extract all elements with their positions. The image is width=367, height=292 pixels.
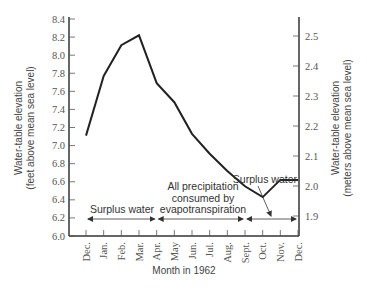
x-tick-label: Feb. <box>116 242 127 260</box>
x-tick-label: Nov. <box>275 242 286 262</box>
y-right-tick-label: 2.0 <box>305 181 318 192</box>
y-right-tick-label: 2.4 <box>305 61 319 72</box>
x-tick-label: Mar. <box>134 242 145 262</box>
y-right-tick-label: 2.5 <box>305 31 318 42</box>
y-axis-label-right-2: (meters above mean sea level) <box>342 59 353 196</box>
x-tick-label: Jan. <box>98 242 109 259</box>
water-table-chart: 6.06.26.46.66.87.07.27.47.67.88.08.28.4 … <box>0 0 367 292</box>
x-tick-label: Sept. <box>240 242 251 263</box>
y-tick-label: 7.6 <box>52 86 65 97</box>
annotation-surplus-left: Surplus water <box>90 203 155 215</box>
y-tick-label: 7.2 <box>52 122 65 133</box>
annotations: Surplus water All precipitation consumed… <box>88 173 297 219</box>
x-tick-label: Jul. <box>204 242 215 257</box>
x-tick-label: Jun. <box>187 242 198 259</box>
x-tick-label: Aug. <box>222 242 233 263</box>
y-right-tick-label: 1.9 <box>305 211 318 222</box>
y-tick-label: 6.0 <box>52 231 65 242</box>
x-tick-label: Apr. <box>151 242 162 260</box>
y-axis-label-left-2: (feet above mean sea level) <box>25 66 36 189</box>
annotation-consumed-1: All precipitation <box>167 180 238 192</box>
y-tick-label: 8.2 <box>52 32 65 43</box>
y-tick-label: 6.4 <box>52 194 66 205</box>
y-tick-label: 6.6 <box>52 176 65 187</box>
annotation-consumed-3: evapotranspiration <box>160 203 247 215</box>
y-tick-label: 7.8 <box>52 68 65 79</box>
y-right-tick-label: 2.2 <box>305 121 318 132</box>
right-y-axis-ticks: 1.92.02.12.22.32.42.5 <box>293 31 319 222</box>
y-right-tick-label: 2.1 <box>305 151 318 162</box>
left-y-axis-ticks: 6.06.26.46.66.87.07.27.47.67.88.08.28.4 <box>52 14 75 242</box>
x-tick-label: May <box>169 241 180 261</box>
annotation-surplus-right: Surplus water <box>233 173 298 185</box>
y-tick-label: 6.2 <box>52 212 65 223</box>
y-tick-label: 6.8 <box>52 158 65 169</box>
x-axis-ticks: Dec.Jan.Feb.Mar.Apr.MayJun.Jul.Aug.Sept.… <box>81 230 304 263</box>
x-tick-label: Oct. <box>257 242 268 260</box>
y-axis-label-left-1: Water-table elevation <box>13 81 24 175</box>
y-tick-label: 8.4 <box>52 14 66 25</box>
y-axis-label-right-1: Water-table elevation <box>330 81 341 175</box>
y-tick-label: 7.4 <box>52 104 66 115</box>
x-tick-label: Dec. <box>81 242 92 262</box>
y-right-tick-label: 2.3 <box>305 91 318 102</box>
y-tick-label: 8.0 <box>52 50 65 61</box>
x-tick-label: Dec. <box>293 242 304 262</box>
x-axis-label: Month in 1962 <box>152 265 216 276</box>
y-tick-label: 7.0 <box>52 140 65 151</box>
